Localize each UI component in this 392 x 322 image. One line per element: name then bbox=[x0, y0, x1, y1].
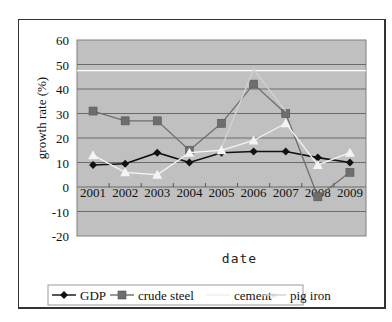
square-marker bbox=[121, 117, 129, 125]
y-tick-label: 0 bbox=[63, 180, 70, 195]
y-tick-label: 60 bbox=[56, 33, 69, 48]
y-tick-label: 20 bbox=[56, 131, 69, 146]
legend-label: pig iron bbox=[290, 288, 331, 303]
x-axis-title: date bbox=[222, 251, 257, 266]
legend-label: crude steel bbox=[138, 288, 194, 303]
x-tick-label: 2009 bbox=[337, 185, 363, 200]
y-tick-label: 40 bbox=[56, 82, 69, 97]
x-tick-label: 2005 bbox=[209, 185, 235, 200]
square-marker bbox=[218, 119, 226, 127]
x-tick-label: 2001 bbox=[80, 185, 106, 200]
y-axis-title: growth rate (%) bbox=[34, 77, 49, 159]
legend-item-pig-iron: ×pig iron bbox=[262, 288, 331, 303]
square-marker bbox=[314, 193, 322, 201]
y-tick-label: -10 bbox=[52, 205, 69, 220]
x-marker-icon: × bbox=[271, 290, 277, 301]
square-marker bbox=[346, 168, 354, 176]
x-tick-label: 2006 bbox=[241, 185, 268, 200]
x-tick-label: 2004 bbox=[176, 185, 203, 200]
square-marker bbox=[89, 107, 97, 115]
square-marker bbox=[250, 80, 258, 88]
y-tick-label: 10 bbox=[56, 156, 69, 171]
square-marker bbox=[118, 291, 126, 299]
x-tick-label: 2003 bbox=[144, 185, 170, 200]
x-tick-label: 2007 bbox=[273, 185, 300, 200]
square-marker bbox=[153, 117, 161, 125]
line-chart: 6050403020100-10-20200120022003200420052… bbox=[0, 0, 392, 322]
y-tick-label: 30 bbox=[56, 107, 69, 122]
x-tick-label: 2002 bbox=[112, 185, 138, 200]
y-tick-label: 50 bbox=[56, 58, 69, 73]
legend-label: GDP bbox=[80, 288, 106, 303]
y-tick-label: -20 bbox=[52, 229, 69, 244]
